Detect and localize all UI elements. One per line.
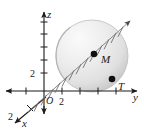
diagram-canvas: M T z y x O 2 2 2 (0, 0, 144, 131)
point-T-dot (109, 76, 116, 83)
point-T-label: T (118, 80, 125, 92)
axis-z-label: z (46, 8, 52, 20)
tick-label-z-2: 2 (30, 68, 35, 79)
origin-label: O (46, 95, 53, 106)
math-figure-3d-sphere: M T z y x O 2 2 2 (0, 0, 144, 131)
tick-label-y-2: 2 (59, 96, 64, 107)
axis-y-label: y (132, 91, 138, 103)
point-M-label: M (100, 53, 111, 65)
axis-x-label: x (21, 117, 27, 129)
tick-label-x-2: 2 (8, 111, 13, 122)
point-M-dot (91, 51, 98, 58)
